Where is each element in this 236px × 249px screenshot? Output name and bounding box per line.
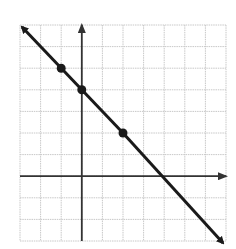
line-segment-lower — [123, 133, 223, 243]
line-segment-upper — [22, 27, 123, 133]
data-point — [119, 129, 128, 138]
data-point — [57, 64, 66, 73]
coordinate-plane — [0, 0, 236, 249]
data-point — [77, 85, 86, 94]
